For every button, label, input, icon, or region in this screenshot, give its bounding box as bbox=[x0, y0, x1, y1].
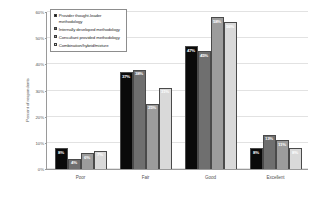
bar[interactable]: 8% bbox=[55, 148, 68, 169]
y-tick-label: 10% bbox=[36, 140, 45, 145]
bar-value-label: 8% bbox=[56, 151, 67, 155]
bar-value-label: 6% bbox=[82, 156, 93, 160]
bar[interactable]: 4% bbox=[68, 159, 81, 169]
legend-item[interactable]: Internally developed methodology bbox=[54, 27, 123, 33]
bar[interactable]: 11% bbox=[276, 140, 289, 169]
bar[interactable]: 47% bbox=[185, 46, 198, 169]
bar[interactable]: 8% bbox=[289, 148, 302, 169]
y-tick-label: 20% bbox=[36, 114, 45, 119]
y-tick-label: 50% bbox=[36, 36, 45, 41]
bar-value-label: 11% bbox=[277, 143, 288, 147]
legend-swatch-icon bbox=[54, 14, 57, 17]
bar[interactable]: 13% bbox=[263, 135, 276, 169]
bar-value-label: 4% bbox=[69, 161, 80, 165]
y-tick-label: 60% bbox=[36, 10, 45, 15]
legend-item[interactable]: Consultant provided methodology bbox=[54, 35, 123, 41]
bar-value-label: 37% bbox=[121, 75, 132, 79]
bar[interactable]: 56% bbox=[224, 22, 237, 169]
bar-value-label: 25% bbox=[147, 106, 158, 110]
y-axis-title: Percent of respondents bbox=[25, 78, 30, 121]
bar-value-label: 56% bbox=[225, 25, 236, 29]
bar[interactable]: 7% bbox=[94, 151, 107, 169]
bar[interactable]: 58% bbox=[211, 17, 224, 169]
bar-value-label: 7% bbox=[95, 153, 106, 157]
y-tick-mark bbox=[45, 169, 47, 170]
bar-value-label: 47% bbox=[186, 49, 197, 53]
chart-legend: Provider thought-leader methodology Inte… bbox=[50, 9, 127, 52]
legend-swatch-icon bbox=[54, 27, 57, 30]
bar-group-excellent: 8% 13% 11% 8% Excellent bbox=[243, 12, 308, 169]
bar[interactable]: 38% bbox=[133, 70, 146, 169]
bar-group-good: 47% 45% 58% 56% Good bbox=[178, 12, 243, 169]
legend-item[interactable]: Provider thought-leader methodology bbox=[54, 13, 123, 24]
bar-value-label: 31% bbox=[160, 90, 171, 94]
y-tick-mark bbox=[45, 64, 47, 65]
x-tick-label: Good bbox=[178, 175, 243, 180]
legend-item[interactable]: Combination/hybrid/mixture bbox=[54, 43, 123, 49]
bar[interactable]: 31% bbox=[159, 88, 172, 169]
bar-value-label: 8% bbox=[290, 151, 301, 155]
legend-swatch-icon bbox=[54, 35, 57, 38]
legend-swatch-icon bbox=[54, 43, 57, 46]
bar[interactable]: 37% bbox=[120, 72, 133, 169]
bar-value-label: 13% bbox=[264, 137, 275, 141]
bar-chart: Percent of respondents 0% 10% 20% 30% 40… bbox=[0, 0, 320, 199]
y-tick-mark bbox=[45, 117, 47, 118]
y-tick-mark bbox=[45, 143, 47, 144]
x-tick-label: Excellent bbox=[243, 175, 308, 180]
legend-label: Internally developed methodology bbox=[59, 27, 120, 33]
legend-label: Provider thought-leader methodology bbox=[59, 13, 123, 24]
bar-value-label: 8% bbox=[251, 151, 262, 155]
x-tick-label: Poor bbox=[48, 175, 113, 180]
bar[interactable]: 25% bbox=[146, 104, 159, 169]
y-tick-mark bbox=[45, 91, 47, 92]
legend-label: Consultant provided methodology bbox=[59, 35, 120, 41]
x-tick-label: Fair bbox=[113, 175, 178, 180]
legend-label: Combination/hybrid/mixture bbox=[59, 43, 109, 49]
bar[interactable]: 6% bbox=[81, 153, 94, 169]
bar-value-label: 45% bbox=[199, 54, 210, 58]
y-tick-label: 0% bbox=[38, 167, 44, 172]
y-tick-mark bbox=[45, 38, 47, 39]
bar[interactable]: 8% bbox=[250, 148, 263, 169]
y-tick-mark bbox=[45, 12, 47, 13]
bar-value-label: 58% bbox=[212, 20, 223, 24]
y-tick-label: 30% bbox=[36, 88, 45, 93]
y-tick-label: 40% bbox=[36, 62, 45, 67]
bar-value-label: 38% bbox=[134, 72, 145, 76]
bar[interactable]: 45% bbox=[198, 51, 211, 169]
